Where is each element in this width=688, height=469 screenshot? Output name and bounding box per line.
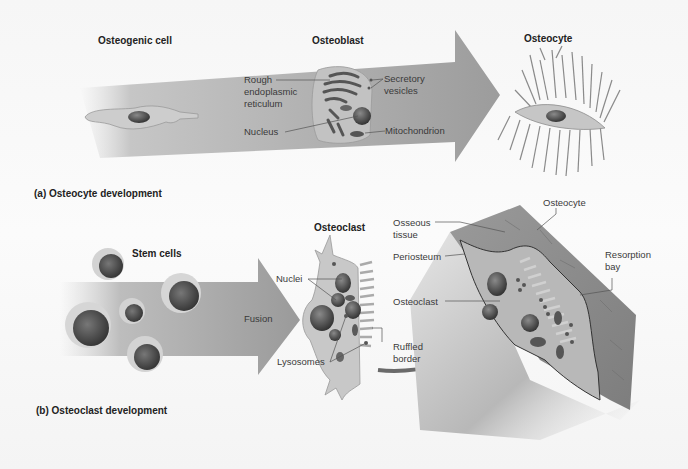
label-resorption-bay: Resorption bay [605, 249, 651, 273]
diagram-artwork [0, 0, 688, 469]
label-rough-er: Rough endoplasmic reticulum [244, 74, 297, 110]
label-stem-cells: Stem cells [132, 248, 181, 260]
label-nucleus: Nucleus [244, 126, 278, 138]
label-bone-osteoclast: Osteoclast [393, 296, 438, 308]
label-mitochondrion: Mitochondrion [385, 125, 445, 137]
osteoclast-illustration [303, 235, 374, 400]
label-bone-osteocyte: Osteocyte [543, 197, 586, 209]
label-osteoclast-title: Osteoclast [314, 222, 365, 234]
osteoblast-illustration [312, 67, 373, 144]
label-nuclei: Nuclei [276, 273, 302, 285]
label-lysosomes: Lysosomes [277, 356, 325, 368]
label-secretory-vesicles: Secretory vesicles [384, 73, 425, 97]
label-osteocyte: Osteocyte [524, 33, 572, 45]
caption-b: (b) Osteoclast development [36, 405, 167, 417]
label-ruffled-border: Ruffled border [393, 341, 423, 365]
label-fusion: Fusion [244, 313, 273, 325]
caption-a: (a) Osteocyte development [34, 188, 162, 200]
label-osteoblast: Osteoblast [312, 35, 364, 47]
osteocyte-osteoclast-diagram: Osteogenic cell Osteoblast Osteocyte Rou… [0, 0, 688, 469]
osteocyte-body [515, 105, 605, 130]
label-periosteum: Periosteum [393, 251, 441, 263]
bone-block-illustration [410, 205, 640, 440]
label-osseous-tissue: Osseous tissue [393, 217, 431, 241]
label-osteogenic-cell: Osteogenic cell [98, 35, 172, 47]
